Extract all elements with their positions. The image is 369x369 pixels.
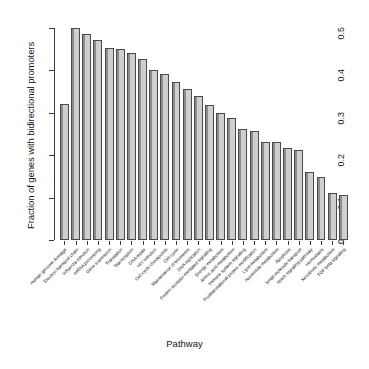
x-axis-tick	[109, 241, 110, 245]
bar	[339, 195, 348, 240]
bar	[205, 105, 214, 240]
bar	[216, 113, 225, 240]
x-axis-tick	[232, 241, 233, 245]
x-axis-tick	[165, 241, 166, 245]
y-axis-tick-label: 0.2	[336, 154, 346, 167]
bar-chart-figure: Fraction of genes with bidirectional pro…	[0, 0, 369, 369]
bar	[261, 142, 270, 240]
plot-area: 00.10.20.30.40.5 Human genome AverageEle…	[54, 20, 350, 242]
x-axis-tick	[143, 241, 144, 245]
x-axis-tick	[64, 241, 65, 245]
x-axis-tick	[76, 241, 77, 245]
bar	[116, 49, 125, 240]
bar	[93, 40, 102, 240]
x-axis-tick	[131, 241, 132, 245]
y-axis-tick	[49, 155, 54, 156]
bar	[272, 142, 281, 240]
y-axis-tick	[49, 70, 54, 71]
x-axis-tick	[254, 241, 255, 245]
bar	[82, 34, 91, 240]
bar	[138, 59, 147, 240]
x-axis-tick	[299, 241, 300, 245]
y-axis-title: Fraction of genes with bidirectional pro…	[25, 16, 36, 256]
x-axis-tick	[209, 241, 210, 245]
y-axis-tick	[49, 240, 54, 241]
x-axis-tick	[265, 241, 266, 245]
x-axis-tick	[176, 241, 177, 245]
x-axis-tick	[321, 241, 322, 245]
x-axis-tick	[98, 241, 99, 245]
bar	[238, 129, 247, 240]
bar	[71, 28, 80, 240]
bar	[328, 193, 337, 240]
x-axis-title: Pathway	[0, 338, 369, 349]
x-axis-tick	[221, 241, 222, 245]
x-axis-tick	[243, 241, 244, 245]
x-axis-tick	[198, 241, 199, 245]
y-axis-tick-label: 0.4	[336, 69, 346, 82]
bar	[149, 70, 158, 240]
y-axis-tick	[49, 198, 54, 199]
x-axis-tick	[187, 241, 188, 245]
x-axis-tick	[310, 241, 311, 245]
bar	[283, 148, 292, 240]
y-axis-tick	[49, 113, 54, 114]
x-axis-tick	[120, 241, 121, 245]
bar	[183, 89, 192, 240]
x-axis-tick	[87, 241, 88, 245]
bar	[105, 48, 114, 240]
bar	[294, 150, 303, 240]
bar	[172, 82, 181, 240]
bar	[250, 131, 259, 240]
x-axis-tick	[154, 241, 155, 245]
x-axis-tick	[332, 241, 333, 245]
y-axis-tick	[49, 28, 54, 29]
bar	[227, 118, 236, 240]
y-axis-tick-label: 0.5	[336, 27, 346, 40]
y-axis-line	[54, 28, 55, 240]
bar	[60, 104, 69, 240]
x-axis-tick	[276, 241, 277, 245]
bar	[160, 74, 169, 240]
bar	[305, 172, 314, 240]
y-axis-tick-label: 0.3	[336, 112, 346, 125]
bar	[317, 177, 326, 240]
x-axis-tick	[288, 241, 289, 245]
bar	[194, 96, 203, 240]
x-axis-tick	[343, 241, 344, 245]
bar	[127, 53, 136, 240]
